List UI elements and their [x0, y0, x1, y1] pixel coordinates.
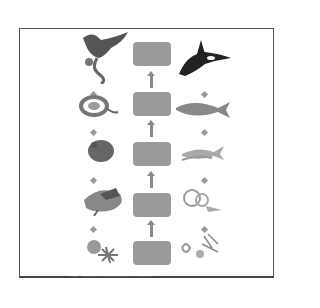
level-box-4[interactable] [133, 92, 171, 116]
level-box-1[interactable] [133, 241, 171, 265]
eagle-with-snake-icon [73, 28, 133, 84]
arrow-up-icon [150, 175, 153, 188]
small-fish-icon [180, 142, 228, 166]
snake-icon [78, 92, 122, 122]
phytoplankton-icon [178, 228, 226, 264]
level-box-3[interactable] [133, 142, 171, 166]
flowering-plant-icon [84, 233, 120, 269]
arrow-up-icon [150, 224, 153, 237]
arrow-up-icon [150, 124, 153, 137]
zooplankton-icon [178, 186, 226, 218]
copyright-text: Copyright © Pearson Education, Inc., pub… [70, 275, 210, 278]
grasshopper-on-plant-icon [80, 180, 128, 216]
tuna-icon [174, 98, 232, 122]
arrow-up-icon [150, 75, 153, 88]
level-box-2[interactable] [133, 193, 171, 217]
rodent-icon [85, 135, 121, 165]
orca-icon [175, 36, 233, 80]
level-box-5[interactable] [133, 42, 171, 66]
